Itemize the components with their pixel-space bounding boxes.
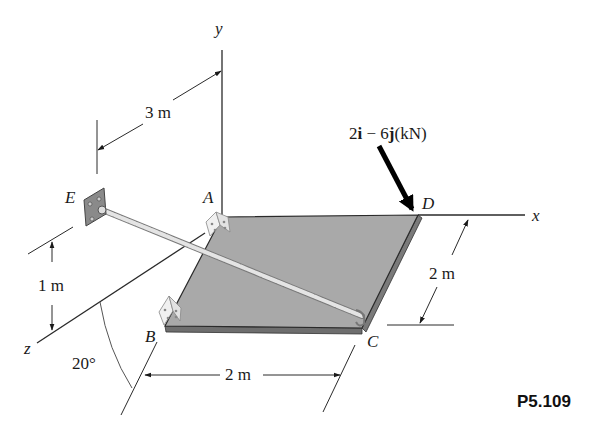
dim-1m-label: 1 m [38, 277, 64, 294]
plate-top [165, 215, 418, 328]
load-unit: (kN) [395, 124, 427, 143]
point-a-label: A [203, 189, 213, 206]
c-extension-line [323, 345, 355, 412]
x-axis-label: x [532, 207, 540, 224]
figure-id: P5.109 [517, 393, 571, 410]
point-e-label: E [65, 189, 75, 206]
dim-dc-label: 2 m [429, 265, 455, 282]
dim-3m-arrow-right [173, 71, 221, 100]
bracket-e-bolt [97, 197, 101, 201]
dim-2m-dc-up [452, 220, 468, 255]
angle-arc [100, 302, 132, 388]
bracket-e-bolt [88, 202, 92, 206]
dim-bc-label: 2 m [225, 366, 251, 383]
bracket-e-bolt [90, 217, 94, 221]
dim-3m-arrow-left [98, 124, 143, 150]
dim-2m-dc-down [420, 287, 437, 323]
load-j-coef: 6 [380, 124, 389, 143]
load-label: 2i − 6j(kN) [349, 125, 427, 142]
dim-1m-extension [28, 227, 73, 254]
angle-label: 20° [72, 355, 96, 372]
point-c-label: C [367, 333, 378, 350]
force-arrow [379, 146, 412, 209]
point-d-label: D [422, 195, 434, 212]
z-axis-label: z [24, 340, 31, 357]
y-axis-label: y [215, 20, 223, 37]
dim-3m-label: 3 m [145, 104, 171, 121]
point-b-label: B [145, 328, 155, 345]
load-minus: − [362, 124, 380, 143]
bracket-e-eye [98, 206, 106, 214]
load-i-coef: 2 [349, 124, 358, 143]
